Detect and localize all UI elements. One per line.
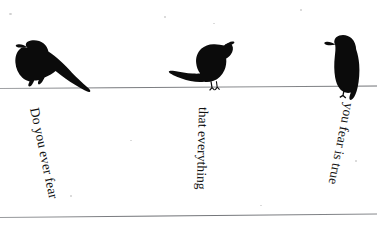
phrase-that-everything: that everything [193, 107, 211, 190]
paper-speck [300, 9, 302, 11]
paper-speck [164, 16, 166, 18]
paper-speck [9, 13, 12, 15]
lower-wire [0, 213, 377, 218]
paper-speck [260, 205, 262, 206]
paper-speck [213, 23, 215, 24]
paper-speck [355, 160, 357, 162]
phrase-you-fear-is-true: you fear is true [325, 101, 357, 185]
crow-silhouette-upright [321, 32, 371, 104]
crow-silhouette-left [13, 38, 91, 100]
phrase-do-you-ever-fear: Do you ever fear [26, 106, 61, 200]
artwork-canvas: Do you ever fear that everything you fea… [0, 0, 377, 232]
crow-silhouette-right [167, 37, 235, 99]
paper-speck [70, 195, 72, 197]
paper-speck [130, 140, 132, 141]
